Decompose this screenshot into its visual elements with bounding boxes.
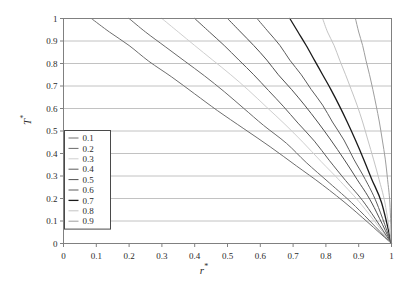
x-axis-title: r* [0, 262, 408, 276]
x-tick-label-5: 0.5 [222, 251, 234, 261]
plot-canvas: 00.10.20.30.40.50.60.70.80.9100.10.20.30… [0, 0, 408, 287]
legend-label-0.4: 0.4 [83, 164, 95, 174]
x-tick-label-4: 0.4 [189, 251, 201, 261]
legend-label-0.5: 0.5 [83, 175, 95, 185]
y-tick-label-1: 0.1 [46, 216, 57, 226]
x-axis-title-star: * [204, 262, 208, 271]
y-tick-label-5: 0.5 [46, 126, 58, 136]
y-tick-label-6: 0.6 [46, 104, 58, 114]
y-tick-label-10: 1 [53, 14, 58, 24]
y-tick-label-0: 0 [53, 239, 58, 249]
x-tick-label-1: 0.1 [91, 251, 102, 261]
x-tick-label-10: 1 [389, 251, 394, 261]
y-tick-label-2: 0.2 [46, 194, 57, 204]
legend-label-0.8: 0.8 [83, 206, 95, 216]
x-tick-label-7: 0.7 [287, 251, 299, 261]
y-tick-label-8: 0.8 [46, 59, 58, 69]
y-tick-label-7: 0.7 [46, 81, 58, 91]
legend-label-0.3: 0.3 [83, 154, 95, 164]
legend: 0.10.20.30.40.50.60.70.80.9 [65, 131, 111, 230]
x-tick-label-8: 0.8 [320, 251, 332, 261]
x-tick-label-9: 0.9 [353, 251, 365, 261]
legend-label-0.2: 0.2 [83, 144, 94, 154]
y-tick-label-3: 0.3 [46, 171, 58, 181]
legend-label-0.9: 0.9 [83, 216, 95, 226]
legend-label-0.6: 0.6 [83, 185, 95, 195]
legend-label-0.1: 0.1 [83, 133, 94, 143]
x-tick-label-6: 0.6 [255, 251, 267, 261]
y-axis-title-rotated: T* [19, 115, 33, 125]
y-axis-title-star: * [19, 115, 28, 119]
x-tick-label-0: 0 [61, 251, 66, 261]
x-tick-label-2: 0.2 [123, 251, 134, 261]
y-axis-title-text: T [21, 119, 33, 125]
y-tick-label-4: 0.4 [46, 149, 58, 159]
chart-figure: 00.10.20.30.40.50.60.70.80.9100.10.20.30… [0, 0, 408, 287]
y-tick-label-9: 0.9 [46, 36, 58, 46]
x-tick-label-3: 0.3 [156, 251, 168, 261]
legend-label-0.7: 0.7 [83, 196, 95, 206]
y-axis-title: T* [6, 113, 46, 127]
